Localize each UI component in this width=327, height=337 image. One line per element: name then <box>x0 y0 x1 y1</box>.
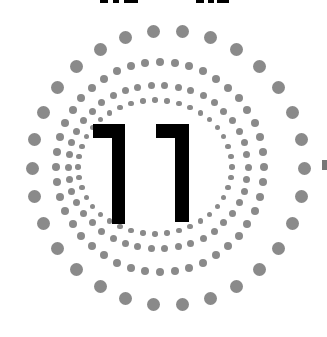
ring-4-dot <box>176 228 182 234</box>
outer-ring-dot <box>70 263 83 276</box>
ring-2-dot <box>100 251 108 259</box>
ring-3-dot <box>148 245 155 252</box>
ring-2-dot <box>212 251 220 259</box>
ring-3-dot <box>89 108 96 115</box>
ring-4-dot <box>84 134 90 140</box>
ring-4-dot <box>90 204 96 210</box>
ring-2-dot <box>171 267 179 275</box>
ring-3-dot <box>89 219 96 226</box>
ring-3-dot <box>229 117 236 124</box>
ring-4-dot <box>76 154 82 160</box>
ring-2-dot <box>141 267 149 275</box>
ring-3-dot <box>110 92 117 99</box>
ring-3-dot <box>220 108 227 115</box>
ring-3-dot <box>187 87 194 94</box>
ring-4-dot <box>198 218 204 224</box>
outer-ring-dot <box>37 217 50 230</box>
outer-ring-dot <box>176 298 189 311</box>
ring-3-dot <box>66 151 73 158</box>
ring-4-dot <box>140 98 146 104</box>
ring-3-dot <box>243 176 250 183</box>
ring-2-dot <box>88 84 96 92</box>
ring-4-dot <box>79 144 85 150</box>
outer-ring-dot <box>230 280 243 293</box>
ring-4-dot <box>75 164 81 170</box>
ring-2-dot <box>156 268 164 276</box>
ring-3-dot <box>175 84 182 91</box>
outer-ring-dot <box>286 106 299 119</box>
ring-3-dot <box>98 228 105 235</box>
ring-4-dot <box>229 164 235 170</box>
outer-ring-dot <box>94 43 107 56</box>
ring-3-dot <box>110 235 117 242</box>
ring-2-dot <box>56 133 64 141</box>
ring-3-dot <box>229 210 236 217</box>
ring-3-dot <box>241 188 248 195</box>
ring-2-dot <box>260 163 268 171</box>
ring-3-dot <box>236 128 243 135</box>
ring-3-dot <box>200 235 207 242</box>
edge-mark <box>322 160 327 170</box>
outer-ring-dot <box>204 292 217 305</box>
ring-2-dot <box>113 67 121 75</box>
outer-ring-dot <box>253 263 266 276</box>
ring-4-dot <box>228 154 234 160</box>
ring-3-dot <box>220 219 227 226</box>
ring-3-dot <box>134 243 141 250</box>
ring-2-dot <box>127 264 135 272</box>
outer-ring-dot <box>28 133 41 146</box>
ring-2-dot <box>69 106 77 114</box>
ring-3-dot <box>236 199 243 206</box>
ring-4-dot <box>207 117 213 123</box>
ring-4-dot <box>228 175 234 181</box>
ring-2-dot <box>185 264 193 272</box>
ring-3-dot <box>134 84 141 91</box>
ring-4-dot <box>117 105 123 111</box>
ring-3-dot <box>211 228 218 235</box>
ring-2-dot <box>224 84 232 92</box>
ring-3-dot <box>211 99 218 106</box>
heading-fragment <box>208 0 214 3</box>
outer-ring-dot <box>204 31 217 44</box>
ring-3-dot <box>66 176 73 183</box>
ring-3-dot <box>122 87 129 94</box>
ring-2-dot <box>52 163 60 171</box>
ring-2-dot <box>100 75 108 83</box>
ring-2-dot <box>199 67 207 75</box>
ring-2-dot <box>56 193 64 201</box>
ring-4-dot <box>187 105 193 111</box>
outer-ring-dot <box>147 25 160 38</box>
ring-2-dot <box>113 259 121 267</box>
ring-2-dot <box>259 148 267 156</box>
ring-3-dot <box>65 164 72 171</box>
ring-3-dot <box>68 139 75 146</box>
ring-4-dot <box>221 195 227 201</box>
ring-2-dot <box>61 119 69 127</box>
ring-2-dot <box>88 242 96 250</box>
ring-3-dot <box>73 128 80 135</box>
ring-4-dot <box>221 134 227 140</box>
ring-2-dot <box>212 75 220 83</box>
ring-2-dot <box>199 259 207 267</box>
outer-ring-dot <box>147 298 160 311</box>
ring-4-dot <box>107 110 113 116</box>
ring-4-dot <box>152 231 158 237</box>
ring-4-dot <box>128 101 134 107</box>
ring-3-dot <box>241 139 248 146</box>
ring-4-dot <box>198 110 204 116</box>
ring-3-dot <box>243 151 250 158</box>
outer-ring-dot <box>272 81 285 94</box>
ring-2-dot <box>251 119 259 127</box>
ring-2-dot <box>256 193 264 201</box>
outer-ring-dot <box>37 106 50 119</box>
ring-2-dot <box>127 62 135 70</box>
ring-4-dot <box>76 175 82 181</box>
heading-fragment <box>196 0 204 3</box>
ring-4-dot <box>215 204 221 210</box>
ring-2-dot <box>243 220 251 228</box>
ring-4-dot <box>207 212 213 218</box>
ring-4-dot <box>176 101 182 107</box>
outer-ring-dot <box>70 60 83 73</box>
outer-ring-dot <box>295 190 308 203</box>
outer-ring-dot <box>295 133 308 146</box>
